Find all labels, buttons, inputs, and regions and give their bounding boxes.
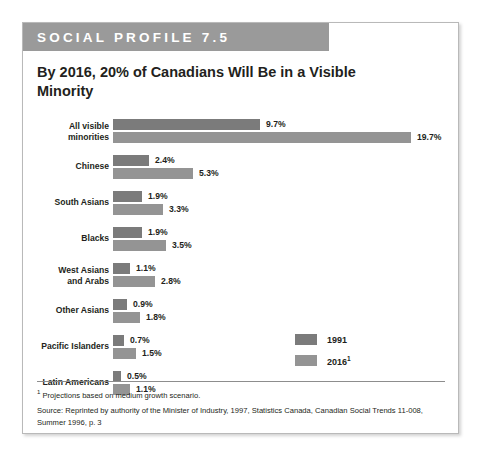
chart-category-label-line: minorities [23,132,109,143]
chart-bar-1991 [113,263,130,274]
chart-bar-value: 2.4% [155,155,175,166]
footnote-note-text: Projections based on medium growth scena… [42,391,200,400]
chart-category-label: Other Asians [23,305,109,316]
chart-bar-value: 19.7% [417,132,441,143]
chart-legend-label: 20161 [327,355,351,367]
chart-bar-2016 [113,348,136,359]
chart-category-label: Latin Americans [23,377,109,388]
chart-title: By 2016, 20% of Canadians Will Be in a V… [37,63,377,101]
chart-bar-2016 [113,204,163,215]
chart-plot-area: All visibleminorities9.7%19.7%Chinese2.4… [23,119,460,377]
chart-bar-value: 2.8% [161,276,181,287]
chart-category-label-line: West Asians [23,265,109,276]
chart-category-label-line: All visible [23,121,109,132]
chart-bar-value: 1.9% [148,227,168,238]
chart-bar-value: 5.3% [199,168,219,179]
chart-bar-value: 3.5% [172,240,192,251]
figure-header-label: SOCIAL PROFILE 7.5 [23,30,230,45]
chart-category-label: Pacific Islanders [23,341,109,352]
footnote-marker: 1 [37,389,40,395]
chart-legend-superscript: 1 [347,355,351,362]
chart-bar-1991 [113,119,260,130]
chart-bar-value: 9.7% [266,119,286,130]
chart-bar-value: 1.8% [146,312,166,323]
chart-category-label: West Asiansand Arabs [23,265,109,286]
chart-legend-label: 1991 [327,335,347,345]
chart-category-label-line: and Arabs [23,276,109,287]
chart-bar-value: 3.3% [169,204,189,215]
chart-legend: 199120161 [295,333,351,375]
social-profile-figure: SOCIAL PROFILE 7.5 By 2016, 20% of Canad… [22,22,459,434]
chart-bar-1991 [113,227,142,238]
footnote-note: 1 Projections based on medium growth sce… [37,387,449,401]
chart-legend-label-text: 2016 [327,357,347,367]
chart-category-label: All visibleminorities [23,121,109,142]
chart-bar-2016 [113,312,140,323]
chart-bar-2016 [113,168,193,179]
chart-legend-label-text: 1991 [327,335,347,345]
chart-category-label: South Asians [23,197,109,208]
chart-bar-1991 [113,299,127,310]
chart-bar-1991 [113,191,142,202]
chart-category-label: Chinese [23,161,109,172]
chart-bar-value: 1.1% [136,263,156,274]
chart-bar-value: 1.5% [142,348,162,359]
chart-legend-swatch [295,334,317,345]
chart-legend-swatch [295,355,317,366]
footnote-source: Source: Reprinted by authority of the Mi… [37,405,451,428]
chart-bar-1991 [113,335,124,346]
chart-legend-item: 20161 [295,354,351,367]
chart-bar-value: 0.9% [133,299,153,310]
chart-bar-2016 [113,240,166,251]
chart-category-label: Blacks [23,233,109,244]
chart-bar-2016 [113,276,155,287]
chart-bar-value: 1.9% [148,191,168,202]
chart-bar-value: 0.7% [130,335,150,346]
chart-bar-1991 [113,155,149,166]
chart-bar-2016 [113,132,411,143]
figure-header-band: SOCIAL PROFILE 7.5 [23,23,329,51]
chart-legend-item: 1991 [295,333,351,346]
footnote-divider [37,381,445,382]
